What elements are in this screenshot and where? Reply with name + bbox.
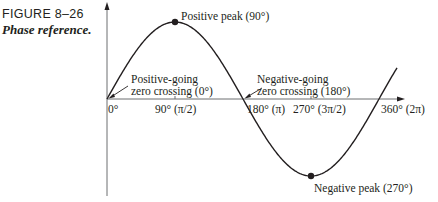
- x-tick-label-180: 180° (π): [247, 103, 285, 116]
- positive-peak-dot: [172, 19, 178, 25]
- sine-wave-extension: [379, 68, 397, 99]
- pos-zero-label-line2: zero crossing (0°): [131, 85, 213, 98]
- neg-zero-arrow-icon: [245, 94, 252, 99]
- x-tick-label-270: 270° (3π/2): [293, 103, 346, 116]
- y-axis-arrow-icon: [105, 2, 110, 10]
- x-tick-label-0: 0°: [108, 103, 119, 115]
- negative-peak-label: Negative peak (270°): [314, 182, 413, 195]
- x-tick-label-360: 360° (2π): [381, 103, 425, 116]
- positive-peak-label: Positive peak (90°): [181, 10, 269, 23]
- neg-zero-label-line2: zero crossing (180°): [257, 85, 351, 98]
- negative-peak-dot: [308, 173, 314, 179]
- x-axis-arrow-icon: [397, 97, 405, 102]
- phase-diagram: Positive peak (90°) Positive-going zero …: [0, 0, 438, 202]
- x-tick-label-90: 90° (π/2): [155, 103, 197, 116]
